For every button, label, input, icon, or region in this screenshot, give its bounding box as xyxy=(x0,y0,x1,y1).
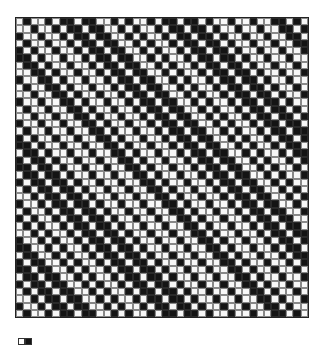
grid-cell xyxy=(96,69,103,76)
grid-cell xyxy=(213,164,220,171)
grid-cell xyxy=(286,171,293,178)
grid-cell xyxy=(31,84,38,91)
grid-cell xyxy=(96,127,103,134)
grid-cell xyxy=(169,252,176,259)
grid-cell xyxy=(104,157,111,164)
grid-cell xyxy=(111,281,118,288)
grid-cell xyxy=(242,237,249,244)
grid-cell xyxy=(23,40,30,47)
grid-cell xyxy=(213,273,220,280)
grid-cell xyxy=(111,113,118,120)
grid-cell xyxy=(264,135,271,142)
grid-cell xyxy=(162,120,169,127)
grid-cell xyxy=(45,230,52,237)
grid-cell xyxy=(286,33,293,40)
grid-cell xyxy=(250,266,257,273)
grid-cell xyxy=(279,171,286,178)
grid-cell xyxy=(23,120,30,127)
grid-cell xyxy=(271,179,278,186)
grid-cell xyxy=(38,157,45,164)
grid-cell xyxy=(125,47,132,54)
grid-cell xyxy=(162,47,169,54)
grid-cell xyxy=(133,281,140,288)
grid-cell xyxy=(96,62,103,69)
grid-cell xyxy=(155,310,162,317)
grid-cell xyxy=(125,84,132,91)
grid-cell xyxy=(38,252,45,259)
grid-cell xyxy=(286,18,293,25)
grid-cell xyxy=(118,295,125,302)
grid-cell xyxy=(96,171,103,178)
grid-cell xyxy=(184,244,191,251)
grid-cell xyxy=(213,135,220,142)
grid-cell xyxy=(45,69,52,76)
grid-cell xyxy=(250,33,257,40)
grid-cell xyxy=(45,200,52,207)
grid-cell xyxy=(206,113,213,120)
grid-cell xyxy=(31,113,38,120)
grid-cell xyxy=(228,98,235,105)
grid-cell xyxy=(271,91,278,98)
grid-cell xyxy=(228,273,235,280)
grid-cell xyxy=(147,179,154,186)
grid-cell xyxy=(279,215,286,222)
grid-cell xyxy=(235,149,242,156)
grid-cell xyxy=(104,54,111,61)
grid-cell xyxy=(140,288,147,295)
grid-cell xyxy=(89,33,96,40)
grid-cell xyxy=(52,25,59,32)
grid-cell xyxy=(191,47,198,54)
grid-cell xyxy=(52,179,59,186)
grid-cell xyxy=(286,303,293,310)
grid-cell xyxy=(293,157,300,164)
grid-cell xyxy=(162,142,169,149)
grid-cell xyxy=(206,18,213,25)
grid-cell xyxy=(250,208,257,215)
grid-cell xyxy=(213,47,220,54)
grid-cell xyxy=(140,91,147,98)
grid-cell xyxy=(23,164,30,171)
grid-cell xyxy=(177,84,184,91)
grid-cell xyxy=(301,288,308,295)
grid-cell xyxy=(82,281,89,288)
grid-cell xyxy=(45,40,52,47)
grid-cell xyxy=(293,266,300,273)
grid-cell xyxy=(82,295,89,302)
grid-cell xyxy=(74,120,81,127)
grid-cell xyxy=(74,230,81,237)
grid-cell xyxy=(184,179,191,186)
grid-cell xyxy=(228,54,235,61)
grid-cell xyxy=(293,215,300,222)
grid-cell xyxy=(213,288,220,295)
grid-cell xyxy=(301,295,308,302)
grid-cell xyxy=(286,252,293,259)
grid-cell xyxy=(140,186,147,193)
grid-cell xyxy=(52,84,59,91)
grid-cell xyxy=(147,230,154,237)
grid-cell xyxy=(293,252,300,259)
grid-cell xyxy=(111,252,118,259)
grid-cell xyxy=(133,33,140,40)
grid-cell xyxy=(67,259,74,266)
grid-cell xyxy=(67,200,74,207)
grid-cell xyxy=(177,288,184,295)
grid-cell xyxy=(220,84,227,91)
grid-cell xyxy=(38,171,45,178)
grid-cell xyxy=(257,186,264,193)
grid-cell xyxy=(286,47,293,54)
grid-cell xyxy=(155,193,162,200)
grid-cell xyxy=(74,62,81,69)
grid-cell xyxy=(228,18,235,25)
grid-cell xyxy=(23,33,30,40)
grid-cell xyxy=(271,237,278,244)
grid-cell xyxy=(52,310,59,317)
grid-cell xyxy=(191,40,198,47)
grid-cell xyxy=(228,127,235,134)
grid-cell xyxy=(60,106,67,113)
grid-cell xyxy=(96,164,103,171)
grid-cell xyxy=(279,222,286,229)
grid-cell xyxy=(82,135,89,142)
grid-cell xyxy=(242,113,249,120)
grid-cell xyxy=(96,120,103,127)
grid-cell xyxy=(31,310,38,317)
